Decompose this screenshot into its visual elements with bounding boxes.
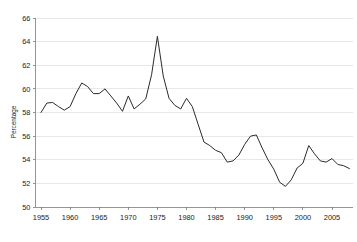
x-tick-label-1960: 1960 — [62, 213, 78, 222]
y-axis-tick-labels: 505254565860626466 — [22, 14, 30, 212]
chart-plot-area: 505254565860626466 195519601965197019751… — [0, 0, 357, 242]
y-tick-label-54: 54 — [22, 155, 30, 164]
x-tick-label-1955: 1955 — [33, 213, 49, 222]
y-axis-title: Percentage — [10, 105, 18, 138]
series-line-percentage — [41, 36, 349, 186]
x-tick-label-1965: 1965 — [91, 213, 107, 222]
y-tick-label-62: 62 — [22, 61, 30, 70]
gridlines — [35, 18, 353, 183]
x-tick-label-2000: 2000 — [295, 213, 311, 222]
axis-tick-marks — [33, 18, 332, 210]
x-tick-label-1980: 1980 — [178, 213, 194, 222]
x-tick-label-1970: 1970 — [120, 213, 136, 222]
x-tick-label-1985: 1985 — [207, 213, 223, 222]
y-tick-label-56: 56 — [22, 132, 30, 141]
x-tick-label-1975: 1975 — [149, 213, 165, 222]
y-tick-label-50: 50 — [22, 203, 30, 212]
x-axis-tick-labels: 1955196019651970197519801985199019952000… — [33, 213, 340, 222]
y-axis-label-text: Percentage — [10, 105, 18, 138]
y-tick-label-64: 64 — [22, 37, 30, 46]
data-series — [41, 36, 349, 186]
y-tick-label-52: 52 — [22, 179, 30, 188]
line-chart: 505254565860626466 195519601965197019751… — [0, 0, 357, 242]
y-tick-label-60: 60 — [22, 85, 30, 94]
x-tick-label-1995: 1995 — [266, 213, 282, 222]
x-tick-label-2005: 2005 — [324, 213, 340, 222]
x-tick-label-1990: 1990 — [236, 213, 252, 222]
y-tick-label-66: 66 — [22, 14, 30, 23]
y-tick-label-58: 58 — [22, 108, 30, 117]
